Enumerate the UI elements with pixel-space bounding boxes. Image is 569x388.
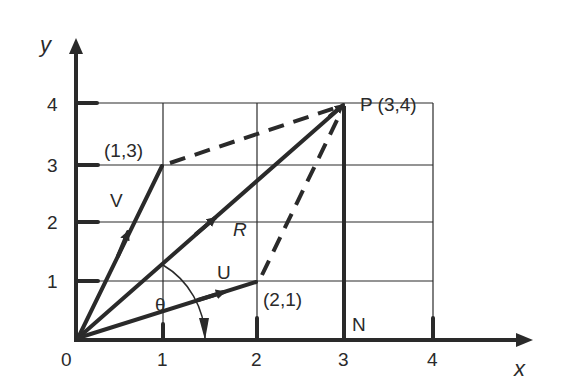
point-p-label: P (3,4) <box>360 94 417 115</box>
grid <box>76 103 433 340</box>
point-n-label: N <box>352 314 366 335</box>
point-v-tip-label: (1,3) <box>104 140 143 161</box>
y-axis-label: y <box>38 32 53 57</box>
dashed-sides <box>170 108 340 275</box>
y-tick-1: 1 <box>47 271 58 292</box>
vector-addition-diagram: y x 0 1 2 3 4 1 2 3 4 P (3,4) (1,3) (2,1… <box>0 0 569 388</box>
y-tick-3: 3 <box>47 155 58 176</box>
vector-v-label: V <box>110 190 123 211</box>
x-axis-label: x <box>513 356 526 381</box>
x-tick-4: 4 <box>427 349 438 370</box>
angle-arrow-icon <box>199 318 209 340</box>
y-tick-4: 4 <box>47 94 58 115</box>
y-axis-arrow-icon <box>69 38 83 54</box>
tick-marks <box>78 103 433 339</box>
x-tick-3: 3 <box>338 349 349 370</box>
x-tick-2: 2 <box>251 349 262 370</box>
y-tick-2: 2 <box>47 212 58 233</box>
point-u-tip-label: (2,1) <box>263 289 302 310</box>
origin-label: 0 <box>61 349 72 370</box>
x-tick-1: 1 <box>157 349 168 370</box>
vector-u-label: U <box>217 262 231 283</box>
x-axis-arrow-icon <box>516 333 533 347</box>
angle-theta-label: θ <box>155 294 166 315</box>
vector-r-label: R <box>233 219 247 240</box>
vector-u <box>78 282 256 338</box>
